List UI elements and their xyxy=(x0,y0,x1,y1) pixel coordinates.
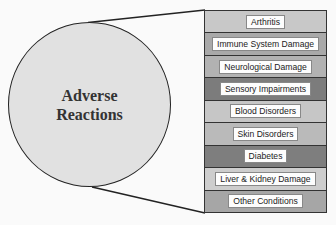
item-label: Diabetes xyxy=(244,149,288,163)
item-label: Arthritis xyxy=(246,15,285,29)
list-item-liver-kidney-damage: Liver & Kidney Damage xyxy=(205,168,326,190)
list-item-sensory-impairments: Sensory Impairments xyxy=(205,78,326,100)
item-label: Blood Disorders xyxy=(230,104,301,118)
item-label: Sensory Impairments xyxy=(220,82,311,96)
list-item-skin-disorders: Skin Disorders xyxy=(205,123,326,145)
list-item-immune-system-damage: Immune System Damage xyxy=(205,33,326,55)
list-item-neurological-damage: Neurological Damage xyxy=(205,56,326,78)
list-item-other-conditions: Other Conditions xyxy=(205,191,326,212)
item-label: Neurological Damage xyxy=(219,60,312,74)
item-label: Immune System Damage xyxy=(212,37,319,51)
reaction-list-panel: Arthritis Immune System Damage Neurologi… xyxy=(204,10,327,213)
adverse-reactions-circle: Adverse Reactions xyxy=(8,22,171,187)
item-label: Skin Disorders xyxy=(233,127,299,141)
circle-label: Adverse Reactions xyxy=(56,86,123,124)
list-item-arthritis: Arthritis xyxy=(205,11,326,33)
item-label: Other Conditions xyxy=(228,194,303,208)
list-item-diabetes: Diabetes xyxy=(205,146,326,168)
item-label: Liver & Kidney Damage xyxy=(215,172,315,186)
list-item-blood-disorders: Blood Disorders xyxy=(205,101,326,123)
